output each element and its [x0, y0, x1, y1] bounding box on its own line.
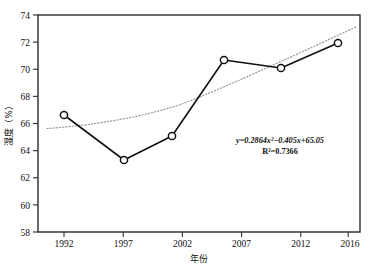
y-tick-label-62: 62: [21, 173, 31, 183]
x-tick-label-2016: 2016: [341, 239, 360, 249]
data-point-1992: [60, 111, 67, 118]
y-tick-label-68: 68: [21, 92, 31, 102]
regression-equation: y=0.2864x²−0.405x+65.05: [235, 136, 324, 145]
y-axis-title: 湿度（%）: [3, 101, 14, 146]
x-tick-label-2002: 2002: [173, 239, 192, 249]
y-tick-label-72: 72: [21, 38, 31, 48]
chart-background: [0, 0, 376, 266]
data-point-2006: [220, 56, 227, 63]
y-tick-label-70: 70: [21, 65, 31, 75]
y-tick-label-74: 74: [21, 11, 31, 21]
data-point-2011: [277, 64, 284, 71]
data-point-2014: [334, 39, 341, 46]
chart-container: 74 72 70 68 66 64 62 60 58 湿度（%） 1992 19…: [0, 0, 376, 266]
x-tick-label-2012: 2012: [291, 239, 310, 249]
data-point-1996: [120, 156, 127, 163]
humidity-year-line-chart: 74 72 70 68 66 64 62 60 58 湿度（%） 1992 19…: [0, 0, 376, 266]
x-tick-label-1992: 1992: [55, 239, 74, 249]
y-tick-label-64: 64: [21, 146, 31, 156]
x-axis-title: 年份: [190, 253, 208, 264]
data-point-2001: [168, 132, 175, 139]
y-tick-label-66: 66: [21, 119, 31, 129]
y-tick-label-58: 58: [21, 228, 31, 238]
x-tick-label-1997: 1997: [114, 239, 133, 249]
r-squared-value: R²=0.7366: [262, 147, 298, 156]
x-tick-label-2007: 2007: [232, 239, 251, 249]
y-tick-label-60: 60: [21, 201, 31, 211]
